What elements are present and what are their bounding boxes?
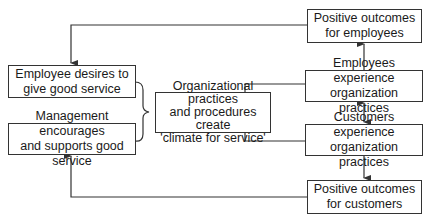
node-label: Positive outcomes for employees <box>314 11 415 41</box>
node-label: Employees experience organization practi… <box>308 56 420 116</box>
node-outcomes-customers: Positive outcomes for customers <box>307 180 422 214</box>
node-label: Customers experience organization practi… <box>308 110 420 170</box>
node-management-encourages: Management encourages and supports good … <box>8 123 136 155</box>
node-climate-for-service: Organizational practices and procedures … <box>155 92 271 133</box>
edge-outcomes-employees-to-desires <box>71 25 307 63</box>
node-label: Organizational practices and procedures … <box>158 80 268 145</box>
node-employees-experience: Employees experience organization practi… <box>305 70 423 102</box>
node-outcomes-employees: Positive outcomes for employees <box>307 9 422 43</box>
node-customers-experience: Customers experience organization practi… <box>305 124 423 156</box>
brace-icon <box>135 82 149 141</box>
node-employee-desires: Employee desires to give good service <box>8 65 136 98</box>
node-label: Positive outcomes for customers <box>314 182 415 212</box>
node-label: Employee desires to give good service <box>15 67 128 97</box>
node-label: Management encourages and supports good … <box>11 109 133 169</box>
